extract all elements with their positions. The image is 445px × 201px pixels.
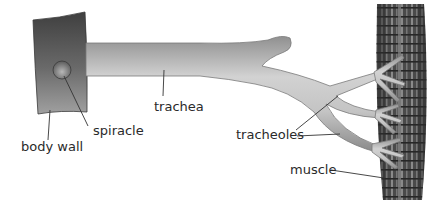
muscle-fiber	[376, 0, 430, 201]
label-tracheoles: tracheoles	[236, 128, 304, 141]
leader-body-wall	[48, 110, 50, 140]
label-muscle: muscle	[290, 163, 336, 176]
label-body-wall: body wall	[21, 140, 83, 153]
leader-muscle	[331, 170, 384, 178]
spiracle-opening	[53, 61, 71, 79]
tracheal-system-diagram	[0, 0, 445, 201]
label-spiracle: spiracle	[93, 124, 144, 137]
label-trachea: trachea	[154, 100, 204, 113]
trachea-tube	[86, 36, 405, 169]
